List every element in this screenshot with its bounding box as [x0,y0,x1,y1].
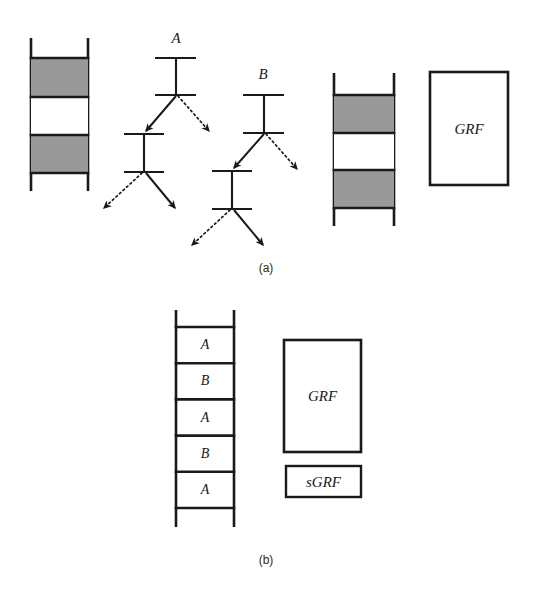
chromosome-right-band-1 [334,133,394,170]
chromosome-left-band-0 [31,58,88,97]
lineage-tree-b-edge-1-dotted [266,134,297,169]
grf-box-a-label: GRF [454,121,483,136]
chromosome-rung-label-3: B [201,447,210,461]
figure-root: A B GRF (a) ABABA GRF sGRF (b) [0,0,533,594]
chromosome-left-band-1 [31,97,88,135]
chromosome-rung-label-2: A [201,411,210,425]
sgrf-box-label: sGRF [306,474,341,489]
panel-a-caption: (a) [259,261,274,275]
lineage-tree-b-edge-0-solid [234,134,264,168]
chromosome-left-band-2 [31,135,88,173]
chromosome-rung-label-4: A [201,483,210,497]
tree-b-label: B [258,67,267,82]
tree-a-label: A [171,31,180,46]
lineage-tree-a-edge-0-solid [146,96,176,131]
chromosome-rung-label-0: A [201,338,210,352]
lineage-tree-b-edge-2-dotted [192,210,230,245]
lineage-tree-a-edge-3-solid [146,173,175,208]
chromosome-right-band-0 [334,95,394,133]
lineage-tree-a-edge-2-dotted [104,173,142,208]
chromosome-right-band-2 [334,170,394,208]
lineage-tree-a-edge-1-dotted [178,96,209,131]
panel-b-caption: (b) [259,553,274,567]
figure-vector-layer [0,0,533,594]
lineage-tree-b-edge-3-solid [234,210,263,245]
chromosome-rung-label-1: B [201,374,210,388]
grf-box-b-label: GRF [308,389,337,404]
